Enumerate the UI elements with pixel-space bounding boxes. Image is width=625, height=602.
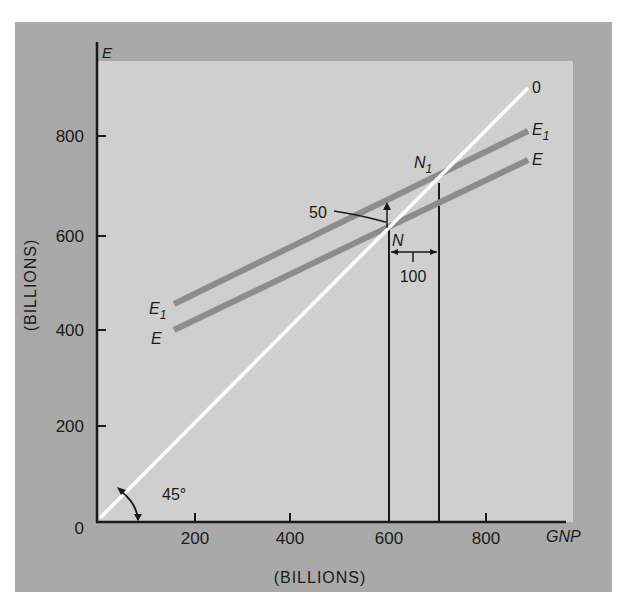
y-tick-600: 600 <box>56 227 84 246</box>
chart-svg: 800 600 400 200 0 200 400 600 800 E GNP … <box>0 0 625 602</box>
y-tick-800: 800 <box>56 127 84 146</box>
shift-100-label: 100 <box>400 268 427 285</box>
y-axis-name: E <box>102 44 113 61</box>
x-tick-800: 800 <box>472 529 500 548</box>
x-tick-400: 400 <box>276 529 304 548</box>
plot-panel <box>97 61 573 522</box>
n-label: N <box>392 232 404 249</box>
e-left-label: E <box>151 330 162 347</box>
y-axis-title: (BILLIONS) <box>22 239 39 332</box>
chart-figure: 800 600 400 200 0 200 400 600 800 E GNP … <box>0 0 625 602</box>
y-tick-200: 200 <box>56 417 84 436</box>
diagonal-label: 0 <box>532 79 541 96</box>
x-axis-name: GNP <box>546 528 581 545</box>
y-tick-400: 400 <box>56 321 84 340</box>
angle-label: 45° <box>162 486 186 503</box>
x-tick-200: 200 <box>181 529 209 548</box>
shift-50-label: 50 <box>309 204 327 221</box>
x-axis-title: (BILLIONS) <box>274 569 367 586</box>
x-tick-600: 600 <box>375 529 403 548</box>
y-tick-0: 0 <box>75 519 84 538</box>
e-right-label: E <box>532 151 543 168</box>
